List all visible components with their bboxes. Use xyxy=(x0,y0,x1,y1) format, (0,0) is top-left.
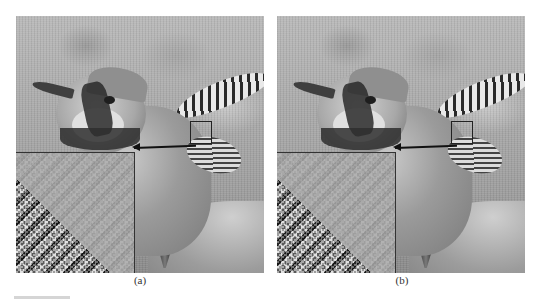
caption-b: (b) xyxy=(382,274,422,286)
arrow-left-icon xyxy=(393,143,401,151)
region-of-interest-box xyxy=(451,121,473,144)
figure-panel-b xyxy=(277,16,525,273)
region-of-interest-box xyxy=(190,121,212,144)
bird-eye xyxy=(104,96,115,104)
magnified-inset xyxy=(16,152,135,273)
magnified-inset xyxy=(277,152,396,273)
bird-collar xyxy=(321,128,401,150)
figure-panel-a xyxy=(16,16,264,273)
bird-eye xyxy=(365,96,376,104)
caption-a: (a) xyxy=(120,274,160,286)
bird-collar xyxy=(60,128,140,150)
arrow-left-icon xyxy=(132,143,140,151)
